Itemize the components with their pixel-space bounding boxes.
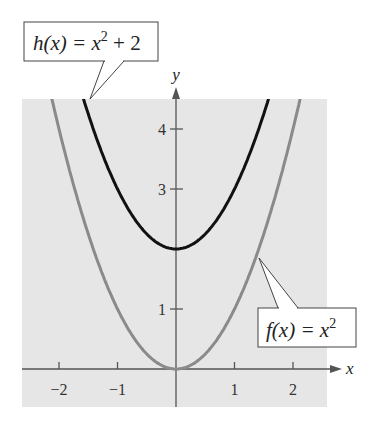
h-callout: h(x) = x2 + 2 [24,22,158,99]
chart: −2 −1 1 2 1 3 4 x y h(x) = x2 + 2 f(x) =… [0,0,380,427]
x-tick-label: −2 [50,381,67,398]
y-axis-arrow-icon [172,87,180,99]
x-axis-arrow-icon [330,365,342,373]
plot-area [22,99,327,407]
x-tick-label: 1 [231,381,239,398]
x-axis-label: x [345,359,354,378]
x-tick-label: 2 [289,381,297,398]
y-axis-label: y [170,65,180,84]
y-tick-label: 1 [158,301,166,318]
h-callout-label: h(x) = x2 + 2 [33,29,141,55]
x-tick-label: −1 [109,381,126,398]
y-tick-label: 3 [158,181,166,198]
y-tick-label: 4 [158,121,166,138]
f-callout-label: f(x) = x2 [266,316,336,342]
